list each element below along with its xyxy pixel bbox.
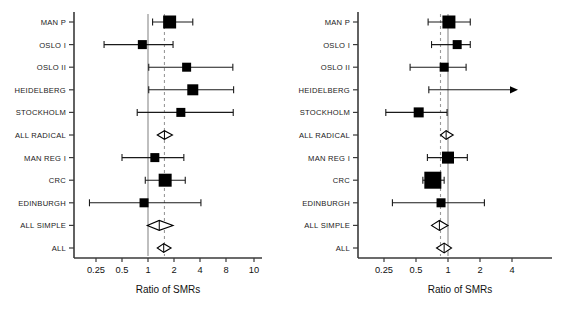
point-estimate-square: [163, 16, 176, 29]
row-label-man-p: MAN P: [0, 18, 66, 27]
row-label-all-simple: ALL SIMPLE: [0, 221, 66, 230]
forest-row-man-reg-i: [122, 153, 184, 162]
forest-row-man-reg-i: [427, 152, 467, 164]
forest-row-man-p: [428, 16, 470, 29]
forest-row-edinburgh: [89, 198, 200, 207]
forest-panel-left: MAN POSLO IOSLO IIHEIDELBERGSTOCKHOLMALL…: [0, 0, 284, 315]
forest-row-oslo-ii: [149, 63, 233, 72]
row-label-edinburgh: EDINBURGH: [0, 198, 66, 207]
x-tick-label: 2: [171, 265, 176, 275]
x-tick-label: 8: [223, 265, 228, 275]
point-estimate-square: [159, 174, 172, 187]
row-label-oslo-ii: OSLO II: [284, 63, 350, 72]
forest-row-man-p: [153, 16, 193, 29]
forest-row-stockholm: [137, 108, 233, 117]
point-estimate-square: [453, 40, 462, 49]
x-tick-label: 0.25: [375, 265, 393, 275]
point-estimate-square: [442, 152, 454, 164]
forest-row-heidelberg: [429, 86, 518, 93]
x-tick-label: 1: [445, 265, 450, 275]
row-label-stockholm: STOCKHOLM: [284, 108, 350, 117]
forest-row-all-simple: [432, 220, 448, 230]
point-estimate-square: [424, 172, 441, 189]
row-label-all-radical: ALL RADICAL: [284, 131, 350, 140]
forest-row-all-radical: [157, 131, 172, 140]
x-axis-title-left: Ratio of SMRs: [136, 284, 200, 295]
row-label-stockholm: STOCKHOLM: [0, 108, 66, 117]
forest-row-oslo-ii: [410, 63, 466, 72]
point-estimate-square: [150, 153, 159, 162]
row-label-all: ALL: [0, 244, 66, 253]
row-label-heidelberg: HEIDELBERG: [0, 85, 66, 94]
x-tick-label: 1: [145, 265, 150, 275]
forest-row-edinburgh: [392, 198, 484, 207]
x-axis-title-right: Ratio of SMRs: [428, 284, 492, 295]
summary-diamond: [440, 131, 453, 140]
forest-row-heidelberg: [149, 84, 234, 95]
point-estimate-square: [140, 198, 149, 207]
forest-row-all: [157, 244, 171, 253]
row-label-edinburgh: EDINBURGH: [284, 198, 350, 207]
x-tick-label: 2: [477, 265, 482, 275]
forest-plot-figure: MAN POSLO IOSLO IIHEIDELBERGSTOCKHOLMALL…: [0, 0, 568, 315]
point-estimate-square: [138, 40, 147, 49]
row-label-oslo-i: OSLO I: [0, 40, 66, 49]
row-label-all-radical: ALL RADICAL: [0, 131, 66, 140]
row-label-man-reg-i: MAN REG I: [284, 153, 350, 162]
row-label-heidelberg: HEIDELBERG: [284, 85, 350, 94]
forest-row-oslo-i: [104, 40, 173, 49]
ci-arrow-right: [510, 86, 518, 93]
x-tick-label: 0.5: [116, 265, 129, 275]
row-label-man-reg-i: MAN REG I: [0, 153, 66, 162]
row-label-all-simple: ALL SIMPLE: [284, 221, 350, 230]
forest-row-stockholm: [386, 107, 447, 117]
point-estimate-square: [442, 16, 455, 29]
x-tick-label: 4: [197, 265, 202, 275]
summary-diamond: [147, 220, 173, 230]
forest-panel-right: MAN POSLO IOSLO IIHEIDELBERGSTOCKHOLMALL…: [284, 0, 568, 315]
forest-row-oslo-i: [432, 40, 471, 49]
forest-row-all-simple: [147, 220, 173, 230]
x-tick-label: 0.5: [410, 265, 423, 275]
point-estimate-square: [440, 63, 449, 72]
forest-row-all: [437, 243, 452, 253]
forest-row-crc: [145, 174, 185, 187]
point-estimate-square: [414, 107, 424, 117]
x-tick-label: 10: [249, 265, 259, 275]
row-label-oslo-ii: OSLO II: [0, 63, 66, 72]
forest-row-all-radical: [440, 131, 453, 140]
forest-row-crc: [423, 172, 444, 189]
row-label-crc: CRC: [284, 176, 350, 185]
row-label-crc: CRC: [0, 176, 66, 185]
x-tick-label: 4: [509, 265, 514, 275]
point-estimate-square: [187, 84, 198, 95]
point-estimate-square: [176, 108, 185, 117]
x-tick-label: 0.25: [87, 265, 105, 275]
point-estimate-square: [182, 63, 191, 72]
row-label-oslo-i: OSLO I: [284, 40, 350, 49]
row-label-all: ALL: [284, 244, 350, 253]
point-estimate-square: [437, 198, 446, 207]
row-label-man-p: MAN P: [284, 18, 350, 27]
